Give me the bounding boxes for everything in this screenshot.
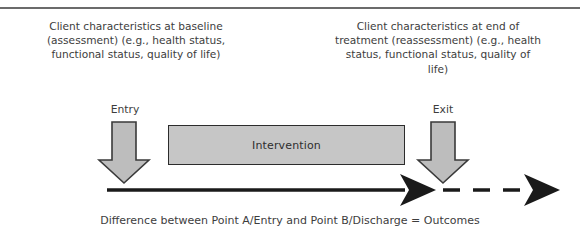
timeline-arrowhead-primary xyxy=(400,174,436,206)
outcomes-caption: Difference between Point A/Entry and Poi… xyxy=(0,214,580,228)
timeline-arrowhead-secondary xyxy=(524,174,560,206)
arrow-layer xyxy=(0,0,580,239)
entry-down-arrow xyxy=(99,122,149,183)
exit-down-arrow xyxy=(418,122,468,183)
outcomes-diagram: Client characteristics at baseline (asse… xyxy=(0,0,580,239)
